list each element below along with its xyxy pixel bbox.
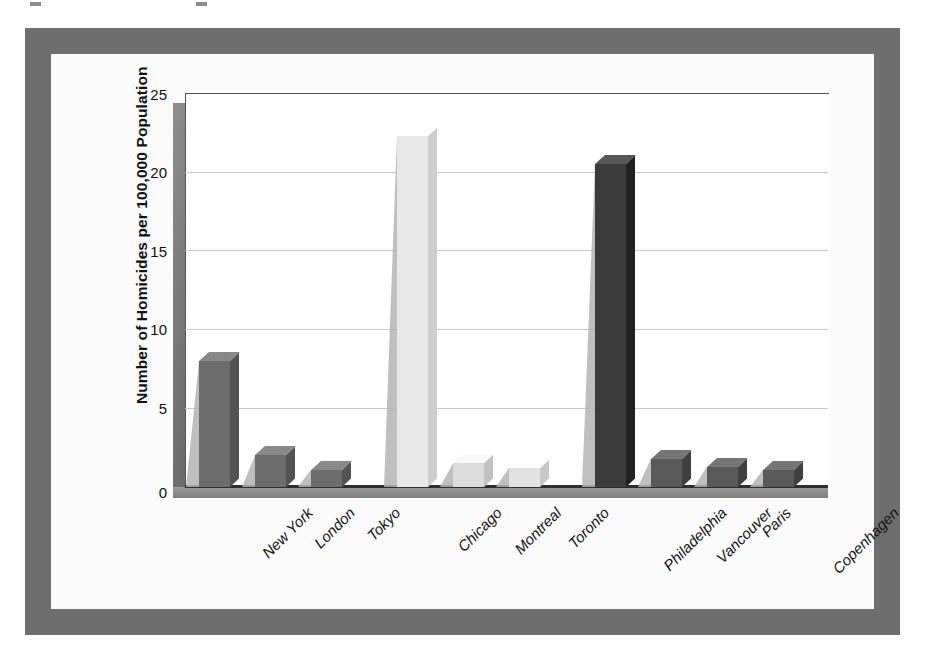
bar-philadelphia[interactable] bbox=[595, 164, 626, 487]
bar-new-york[interactable] bbox=[199, 361, 230, 487]
bar-front-face bbox=[651, 459, 682, 487]
bar-paris[interactable] bbox=[707, 467, 738, 487]
y-tick-20: 20 bbox=[133, 165, 167, 180]
bar-shadow bbox=[496, 468, 509, 487]
y-tick-15: 15 bbox=[133, 244, 167, 259]
x-label-london: London bbox=[311, 504, 358, 551]
image-frame-border: Number of Homicides per 100,000 Populati… bbox=[25, 28, 900, 635]
bar-shadow bbox=[298, 470, 311, 487]
x-label-new-york: New York bbox=[259, 504, 316, 561]
x-axis-tick-labels: New YorkLondonTokyoChicagoMontrealToront… bbox=[173, 504, 828, 654]
bar-series bbox=[173, 93, 828, 498]
bar-london[interactable] bbox=[255, 455, 286, 487]
bar-shadow bbox=[440, 463, 453, 487]
figure-canvas: Number of Homicides per 100,000 Populati… bbox=[51, 54, 874, 609]
bar-montreal[interactable] bbox=[453, 463, 484, 487]
scan-artifact-mark bbox=[30, 2, 41, 6]
bar-shadow bbox=[638, 459, 651, 487]
bar-front-face bbox=[397, 136, 428, 487]
bar-front-face bbox=[509, 468, 540, 487]
bar-toronto[interactable] bbox=[509, 468, 540, 487]
bar-front-face bbox=[311, 470, 342, 487]
bar-side-face bbox=[230, 353, 239, 487]
x-label-philadelphia: Philadelphia bbox=[660, 504, 730, 574]
bar-shadow bbox=[750, 470, 763, 487]
bar-front-face bbox=[199, 361, 230, 487]
bar-chicago[interactable] bbox=[397, 136, 428, 487]
bar-copenhagen[interactable] bbox=[763, 470, 794, 487]
bar-shadow bbox=[582, 164, 595, 487]
bar-front-face bbox=[255, 455, 286, 487]
bar-shadow bbox=[186, 361, 199, 487]
x-label-copenhagen: Copenhagen bbox=[829, 504, 902, 577]
x-label-tokyo: Tokyo bbox=[364, 504, 404, 544]
plot-area bbox=[173, 93, 828, 499]
bar-shadow bbox=[242, 455, 255, 487]
bar-chart: Number of Homicides per 100,000 Populati… bbox=[51, 54, 874, 609]
bar-tokyo[interactable] bbox=[311, 470, 342, 487]
bar-shadow bbox=[384, 136, 397, 487]
scan-artifacts bbox=[0, 0, 932, 26]
y-tick-5: 5 bbox=[133, 401, 167, 416]
bar-vancouver[interactable] bbox=[651, 459, 682, 487]
scan-artifact-mark bbox=[196, 2, 207, 6]
x-label-toronto: Toronto bbox=[565, 504, 613, 552]
y-tick-0: 0 bbox=[133, 485, 167, 500]
y-tick-25: 25 bbox=[133, 87, 167, 102]
y-axis-tick-labels: 25 20 15 10 5 0 bbox=[123, 93, 167, 499]
y-tick-10: 10 bbox=[133, 322, 167, 337]
bar-side-face bbox=[428, 127, 437, 487]
x-label-chicago: Chicago bbox=[454, 504, 505, 555]
bar-side-face bbox=[626, 156, 635, 487]
bar-front-face bbox=[453, 463, 484, 487]
bar-shadow bbox=[694, 467, 707, 487]
x-label-montreal: Montreal bbox=[511, 504, 564, 557]
bar-front-face bbox=[707, 467, 738, 487]
bar-front-face bbox=[763, 470, 794, 487]
bar-front-face bbox=[595, 164, 626, 487]
